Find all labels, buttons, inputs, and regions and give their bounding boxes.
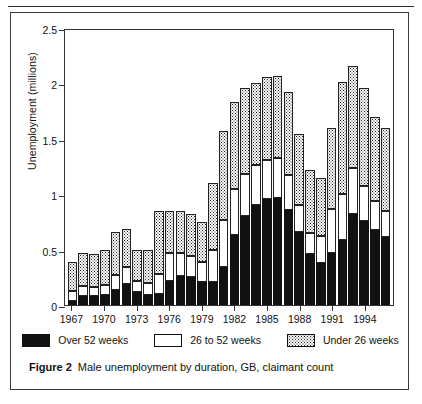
bar-segment-under26 [78, 253, 88, 286]
bar-1967[interactable] [68, 30, 78, 305]
x-tick-mark [300, 306, 301, 311]
bar-segment-over52 [294, 232, 304, 305]
legend-item-over52: Over 52 weeks [22, 334, 128, 347]
bar-segment-under26 [316, 178, 326, 237]
bar-1971[interactable] [111, 30, 121, 305]
bar-segment-over52 [197, 282, 207, 305]
bar-1989[interactable] [305, 30, 315, 305]
bar-segment-26to52 [316, 236, 326, 263]
bar-1990[interactable] [316, 30, 326, 305]
bar-segment-under26 [100, 250, 110, 285]
y-tick-label: 1 [51, 190, 57, 202]
bar-1979[interactable] [197, 30, 207, 305]
bar-segment-26to52 [348, 168, 358, 215]
bar-segment-under26 [338, 82, 348, 194]
bar-segment-under26 [219, 131, 229, 220]
bar-1969[interactable] [89, 30, 99, 305]
bar-segment-over52 [111, 290, 121, 306]
bar-segment-26to52 [89, 287, 99, 296]
y-tick-label: 0.5 [42, 246, 57, 258]
bar-segment-over52 [122, 284, 132, 305]
bar-1973[interactable] [132, 30, 142, 305]
bar-segment-over52 [316, 263, 326, 305]
bar-segment-over52 [68, 301, 78, 305]
x-tick-mark [234, 306, 235, 311]
bar-segment-26to52 [154, 274, 164, 294]
bar-1993[interactable] [348, 30, 358, 305]
bar-1978[interactable] [186, 30, 196, 305]
bar-segment-under26 [132, 250, 142, 281]
bar-1970[interactable] [100, 30, 110, 305]
bar-1984[interactable] [251, 30, 261, 305]
bar-1977[interactable] [176, 30, 186, 305]
bar-1994[interactable] [359, 30, 369, 305]
bar-1974[interactable] [143, 30, 153, 305]
x-tick-mark [137, 306, 138, 311]
x-tick-mark [71, 306, 72, 311]
x-tick-mark [169, 306, 170, 311]
bar-segment-26to52 [338, 194, 348, 239]
bar-segment-26to52 [305, 233, 315, 254]
bar-segment-26to52 [143, 283, 153, 295]
bar-1975[interactable] [154, 30, 164, 305]
bar-segment-over52 [176, 276, 186, 305]
bar-segment-under26 [284, 92, 294, 175]
legend-label-over52: Over 52 weeks [58, 334, 128, 346]
bar-segment-26to52 [197, 262, 207, 282]
bar-segment-over52 [348, 214, 358, 305]
legend-label-under26: Under 26 weeks [323, 334, 399, 346]
bar-segment-over52 [143, 295, 153, 305]
bar-segment-26to52 [78, 286, 88, 296]
bar-1976[interactable] [165, 30, 175, 305]
bar-segment-26to52 [370, 201, 380, 230]
bar-segment-over52 [327, 253, 337, 305]
bar-1991[interactable] [327, 30, 337, 305]
bar-segment-over52 [89, 296, 99, 305]
bar-segment-26to52 [100, 285, 110, 295]
bar-1986[interactable] [273, 30, 283, 305]
bar-segment-over52 [370, 230, 380, 305]
bar-1992[interactable] [338, 30, 348, 305]
x-tick-mark [365, 306, 366, 311]
bar-segment-over52 [132, 292, 142, 305]
bar-1988[interactable] [294, 30, 304, 305]
y-tick-label: 0 [51, 301, 57, 313]
plot-area: 00.511.522.5 [64, 29, 394, 306]
bar-1985[interactable] [262, 30, 272, 305]
bar-segment-26to52 [251, 165, 261, 205]
bar-segment-over52 [208, 282, 218, 305]
bar-segment-under26 [327, 128, 337, 209]
bar-segment-over52 [78, 296, 88, 305]
bar-segment-26to52 [294, 205, 304, 232]
bar-1987[interactable] [284, 30, 294, 305]
top-rule-divider [8, 6, 414, 7]
bar-segment-under26 [143, 250, 153, 283]
bar-series-container [65, 30, 393, 305]
bar-segment-26to52 [359, 186, 369, 220]
bar-1980[interactable] [208, 30, 218, 305]
bar-segment-under26 [186, 214, 196, 256]
bar-segment-under26 [111, 232, 121, 275]
bar-segment-26to52 [230, 189, 240, 236]
x-tick-label: 1979 [190, 313, 213, 325]
bar-segment-over52 [219, 267, 229, 305]
bar-segment-26to52 [381, 211, 391, 238]
bar-1981[interactable] [219, 30, 229, 305]
bar-1968[interactable] [78, 30, 88, 305]
x-tick-mark [104, 306, 105, 311]
y-tick-label: 2.5 [42, 24, 57, 36]
bar-segment-over52 [284, 210, 294, 305]
bar-segment-under26 [359, 88, 369, 187]
x-tick-label: 1967 [60, 313, 83, 325]
bar-1982[interactable] [230, 30, 240, 305]
x-tick-label: 1982 [223, 313, 246, 325]
legend-item-under26: Under 26 weeks [287, 334, 399, 347]
bar-1996[interactable] [381, 30, 391, 305]
bar-1983[interactable] [240, 30, 250, 305]
x-tick-mark [332, 306, 333, 311]
x-tick-label: 1970 [92, 313, 115, 325]
bar-1972[interactable] [122, 30, 132, 305]
legend-item-26to52: 26 to 52 weeks [154, 334, 261, 347]
bar-1995[interactable] [370, 30, 380, 305]
x-tick-label: 1988 [288, 313, 311, 325]
